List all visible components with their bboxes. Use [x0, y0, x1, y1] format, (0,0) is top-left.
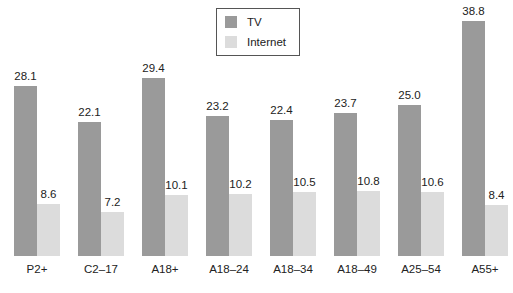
- value-label-tv-2: 29.4: [134, 62, 174, 74]
- bar-internet-0: [37, 204, 60, 256]
- value-label-tv-7: 38.8: [454, 5, 494, 17]
- category-label-1: C2–17: [69, 263, 133, 275]
- value-label-internet-2: 10.1: [157, 179, 197, 191]
- value-label-internet-1: 7.2: [93, 196, 133, 208]
- bar-internet-2: [165, 195, 188, 256]
- legend-label-internet: Internet: [247, 36, 286, 48]
- value-label-internet-6: 10.6: [413, 176, 453, 188]
- category-label-6: A25–54: [389, 263, 453, 275]
- bar-internet-3: [229, 194, 252, 256]
- value-label-tv-6: 25.0: [390, 89, 430, 101]
- value-label-internet-0: 8.6: [29, 188, 69, 200]
- bar-internet-4: [293, 192, 316, 256]
- value-label-internet-5: 10.8: [349, 175, 389, 187]
- value-label-internet-3: 10.2: [221, 178, 261, 190]
- category-label-5: A18–49: [325, 263, 389, 275]
- value-label-tv-0: 28.1: [6, 70, 46, 82]
- category-label-7: A55+: [453, 263, 513, 275]
- legend-swatch-tv: [225, 16, 237, 28]
- chart-legend: TV Internet: [216, 8, 300, 56]
- value-label-internet-4: 10.5: [285, 176, 325, 188]
- bar-internet-7: [485, 205, 508, 256]
- legend-item-tv: TV: [225, 16, 262, 28]
- value-label-tv-4: 22.4: [262, 104, 302, 116]
- bar-internet-5: [357, 191, 380, 256]
- bar-tv-0: [14, 86, 37, 256]
- bar-tv-2: [142, 78, 165, 256]
- category-label-2: A18+: [133, 263, 197, 275]
- bar-tv-1: [78, 122, 101, 256]
- bar-tv-4: [270, 120, 293, 256]
- category-label-0: P2+: [5, 263, 69, 275]
- legend-swatch-internet: [225, 36, 237, 48]
- legend-label-tv: TV: [247, 16, 262, 28]
- category-label-4: A18–34: [261, 263, 325, 275]
- value-label-tv-3: 23.2: [198, 100, 238, 112]
- value-label-tv-1: 22.1: [70, 106, 110, 118]
- value-label-internet-7: 8.4: [477, 189, 513, 201]
- category-label-3: A18–24: [197, 263, 261, 275]
- bar-internet-6: [421, 192, 444, 256]
- bar-internet-1: [101, 212, 124, 256]
- value-label-tv-5: 23.7: [326, 97, 366, 109]
- legend-item-internet: Internet: [225, 36, 286, 48]
- bar-tv-7: [462, 21, 485, 256]
